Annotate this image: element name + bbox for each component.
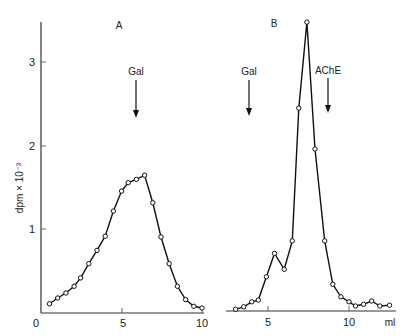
panel-b-gal-label: Gal bbox=[241, 66, 257, 77]
data-point-marker bbox=[264, 275, 268, 279]
data-point-marker bbox=[339, 295, 343, 299]
data-point-marker bbox=[95, 248, 99, 252]
data-point-marker bbox=[159, 235, 163, 239]
ytick-label-1: 1 bbox=[29, 223, 35, 235]
y-axis-label: dpm × 10⁻³ bbox=[14, 162, 25, 213]
data-point-marker bbox=[87, 262, 91, 266]
data-point-marker bbox=[56, 296, 60, 300]
data-point-marker bbox=[331, 282, 335, 286]
data-point-marker bbox=[272, 251, 276, 255]
data-point-marker bbox=[111, 209, 115, 213]
data-point-marker bbox=[175, 284, 179, 288]
data-point-marker bbox=[290, 239, 294, 243]
panel-b-gal-arrow-icon bbox=[246, 80, 252, 116]
x-unit-label: ml bbox=[385, 317, 396, 328]
data-point-marker bbox=[361, 302, 365, 306]
data-point-marker bbox=[282, 267, 286, 271]
data-point-marker bbox=[142, 173, 146, 177]
data-point-marker bbox=[323, 239, 327, 243]
data-point-marker bbox=[347, 300, 351, 304]
data-point-marker bbox=[167, 262, 171, 266]
data-point-marker bbox=[192, 304, 196, 308]
origin-label: 0 bbox=[33, 317, 39, 329]
data-point-marker bbox=[233, 307, 237, 311]
data-point-marker bbox=[151, 201, 155, 205]
panel-b-xtick-label-5: 5 bbox=[265, 316, 271, 328]
panel-b-title: B bbox=[271, 18, 278, 29]
chromatography-chart: 3 2 1 0 5 10 dpm × 10⁻³ A Gal 5 10 ml B … bbox=[0, 0, 412, 336]
data-point-marker bbox=[313, 147, 317, 151]
data-point-marker bbox=[103, 234, 107, 238]
data-point-marker bbox=[378, 304, 382, 308]
panel-a-xtick-label-5: 5 bbox=[120, 317, 126, 329]
data-point-marker bbox=[134, 177, 138, 181]
data-point-marker bbox=[119, 189, 123, 193]
data-point-marker bbox=[387, 303, 391, 307]
data-point-marker bbox=[64, 291, 68, 295]
data-point-marker bbox=[305, 20, 309, 24]
panel-a-gal-arrow-icon bbox=[133, 80, 139, 118]
ytick-label-3: 3 bbox=[29, 56, 35, 68]
panel-b: 5 10 ml B Gal AChE bbox=[226, 18, 396, 328]
panel-b-data-points bbox=[233, 20, 391, 312]
data-point-marker bbox=[256, 298, 260, 302]
panel-a-gal-label: Gal bbox=[128, 66, 144, 77]
data-point-marker bbox=[200, 306, 204, 310]
data-point-marker bbox=[126, 181, 130, 185]
data-point-marker bbox=[297, 106, 301, 110]
data-point-marker bbox=[250, 300, 254, 304]
panel-a-xtick-label-10: 10 bbox=[196, 317, 208, 329]
panel-a-title: A bbox=[116, 20, 123, 31]
panel-b-ache-label: AChE bbox=[315, 65, 341, 76]
panel-b-ache-arrow-icon bbox=[325, 78, 331, 113]
data-point-marker bbox=[183, 297, 187, 301]
panel-a: 3 2 1 0 5 10 dpm × 10⁻³ A Gal bbox=[14, 20, 208, 329]
data-point-marker bbox=[242, 305, 246, 309]
data-point-marker bbox=[47, 302, 51, 306]
panel-b-xtick-label-10: 10 bbox=[343, 316, 355, 328]
data-point-marker bbox=[370, 299, 374, 303]
data-point-marker bbox=[353, 304, 357, 308]
ytick-label-2: 2 bbox=[29, 140, 35, 152]
data-point-marker bbox=[78, 276, 82, 280]
data-point-marker bbox=[72, 284, 76, 288]
panel-b-series-line bbox=[236, 22, 390, 309]
